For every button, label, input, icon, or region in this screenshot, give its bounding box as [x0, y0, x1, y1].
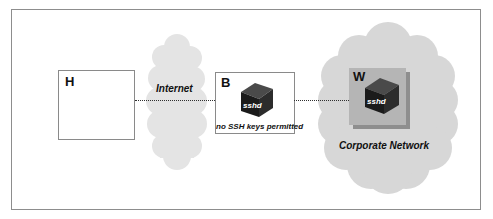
sshd-cube-icon-workstation: sshd: [363, 76, 401, 116]
sshd-cube-text-workstation: sshd: [367, 97, 386, 106]
sshd-cube-text-bastion: sshd: [243, 101, 262, 110]
sshd-cube-icon-bastion: sshd: [239, 81, 275, 119]
bastion-box[interactable]: B sshd no SSH keys permitted: [215, 72, 295, 134]
network-diagram-figure: Internet H: [0, 0, 493, 219]
corporate-network-label: Corporate Network: [339, 140, 429, 151]
link-host-to-internet: [135, 100, 217, 101]
internet-cloud-label: Internet: [156, 83, 193, 94]
host-box-label: H: [65, 74, 74, 89]
bastion-box-label: B: [221, 75, 230, 90]
bastion-caption: no SSH keys permitted: [216, 122, 294, 131]
host-box[interactable]: H: [58, 70, 135, 140]
